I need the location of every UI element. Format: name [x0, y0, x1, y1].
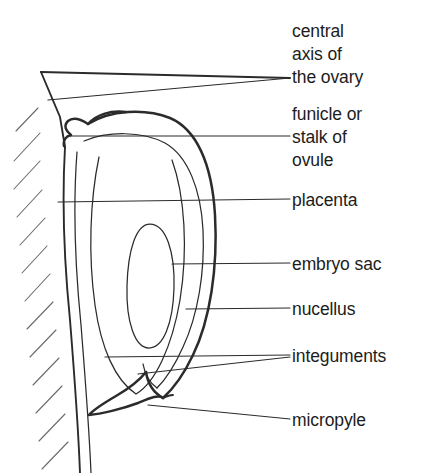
leader-nucellus	[186, 308, 290, 309]
ovule-diagram-svg: central axis of the ovary funicle or sta…	[0, 0, 433, 473]
label-central-axis: central axis of the ovary	[292, 21, 363, 87]
embryo-sac-contour	[127, 224, 174, 348]
label-micropyle: micropyle	[292, 410, 366, 430]
ovule-diagram-figure: central axis of the ovary funicle or sta…	[0, 0, 433, 473]
leader-micropyle	[148, 405, 290, 419]
label-funicle-line2: stalk of	[292, 127, 347, 147]
label-nucellus: nucellus	[292, 299, 356, 319]
label-integuments: integuments	[292, 346, 387, 366]
label-placenta: placenta	[292, 190, 358, 210]
placenta-wall	[64, 147, 91, 473]
funicle-stalk	[64, 112, 126, 146]
ovary-wall-hatching	[14, 108, 68, 469]
label-central-axis-line3: the ovary	[292, 67, 363, 87]
label-central-axis-line1: central	[292, 21, 344, 41]
leader-integuments-outer	[105, 355, 290, 357]
label-embryo-sac: embryo sac	[292, 254, 382, 274]
label-central-axis-line2: axis of	[292, 44, 342, 64]
micropyle-notch	[89, 372, 173, 415]
label-funicle-line3: ovule	[292, 150, 333, 170]
leader-embryo-sac	[172, 263, 290, 264]
leader-integuments-inner	[138, 357, 290, 374]
inner-integument-contour	[84, 134, 203, 388]
label-funicle: funicle or stalk of ovule	[292, 104, 362, 170]
label-funicle-line1: funicle or	[292, 104, 362, 124]
nucellus-contour	[91, 157, 185, 394]
